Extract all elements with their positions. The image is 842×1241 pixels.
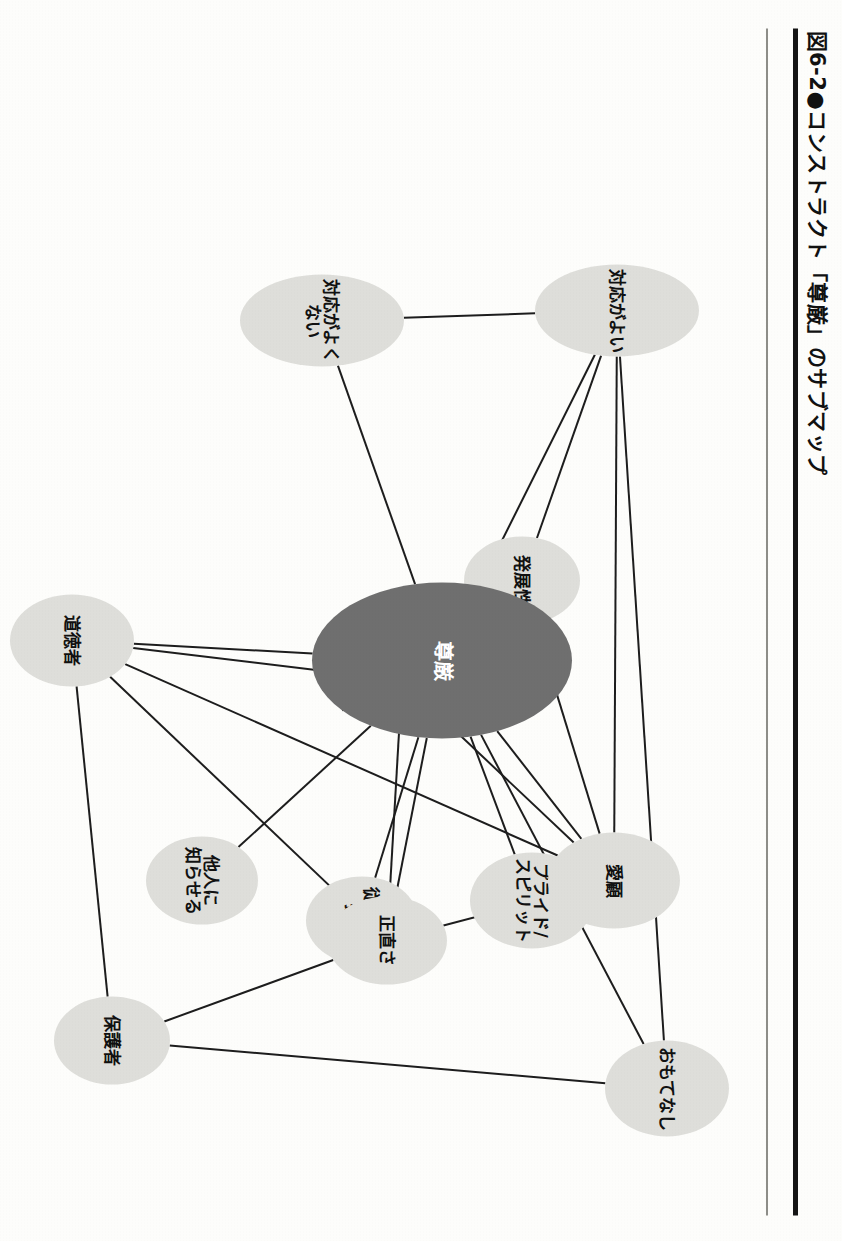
graph-node-label: 対応がよい <box>608 268 626 352</box>
graph-edge <box>390 724 400 896</box>
graph-node-label: 他人に 知らせる <box>184 846 221 914</box>
graph-node-aiko[interactable]: 愛顧 <box>548 832 680 928</box>
graph-node-songen[interactable]: 尊厳 <box>312 582 572 738</box>
graph-node-taiouyoi[interactable]: 対応がよい <box>535 264 699 356</box>
graph-node-label: 対応がよくない <box>304 276 341 364</box>
graph-node-dotokusha[interactable]: 道徳者 <box>10 594 134 686</box>
caption-rule-thick <box>793 28 798 1215</box>
graph-edge <box>537 355 601 537</box>
graph-node-shojikisa[interactable]: 正直さ <box>327 896 447 984</box>
graph-edge <box>471 736 515 854</box>
graph-node-hogosha[interactable]: 保護者 <box>54 996 170 1084</box>
graph-node-taiouyokunai[interactable]: 対応がよくない <box>240 274 404 366</box>
graph-edge <box>338 365 415 584</box>
graph-node-label: 愛顧 <box>605 863 623 897</box>
graph-node-label: 保護者 <box>103 1015 121 1066</box>
graph-node-taninni[interactable]: 他人に 知らせる <box>146 836 258 924</box>
rotated-page-stage: 図6-2●コンストラクト「尊厳」のサブマップ 尊厳おもてなしプライド/ スピリッ… <box>0 0 842 1241</box>
graph-edge <box>170 1045 606 1083</box>
graph-edge <box>404 313 535 317</box>
graph-edge <box>77 686 108 996</box>
graph-node-label: 尊厳 <box>431 640 453 680</box>
graph-edge <box>620 356 664 1040</box>
graph-node-label: プライド/ スピリット <box>514 858 551 943</box>
graph-node-omotenashi[interactable]: おもてなし <box>605 1040 729 1136</box>
graph-node-label: 道徳者 <box>63 615 81 666</box>
graph-edge <box>164 960 333 1021</box>
graph-node-label: 正直さ <box>378 915 396 966</box>
graph-edge <box>614 356 617 832</box>
graph-node-label: おもてなし <box>658 1046 676 1130</box>
figure-caption: 図6-2●コンストラクト「尊厳」のサブマップ <box>804 30 834 475</box>
submap-canvas: 尊厳おもてなしプライド/ スピリット従業員の 扱い他人に 知らせる対応がよい対応… <box>0 0 762 1241</box>
graph-edge <box>497 731 581 839</box>
figure-page: 図6-2●コンストラクト「尊厳」のサブマップ 尊厳おもてなしプライド/ スピリッ… <box>0 0 842 1241</box>
caption-rule-thin <box>766 28 768 1215</box>
